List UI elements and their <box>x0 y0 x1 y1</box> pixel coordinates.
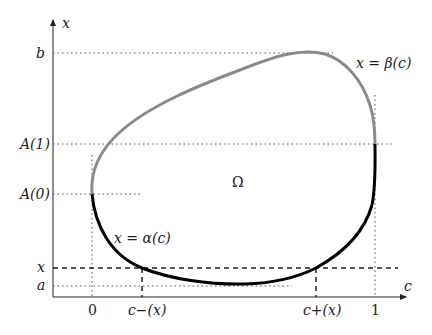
domain-diagram: x c b A(1) A(0) x a 0 c−(x) c+(x) 1 Ω x … <box>0 0 432 335</box>
dotted-guides <box>53 53 393 297</box>
tick-label-A1: A(1) <box>18 136 50 152</box>
tick-label-a: a <box>37 277 45 293</box>
region-omega-label: Ω <box>232 174 244 190</box>
tick-label-c-minus: c−(x) <box>128 302 166 318</box>
tick-label-x: x <box>37 259 45 275</box>
tick-label-zero: 0 <box>88 302 97 318</box>
vertical-axis-label: x <box>62 15 70 31</box>
horizontal-axis-label: c <box>404 278 412 294</box>
beta-curve <box>92 52 375 194</box>
tick-label-c-plus: c+(x) <box>303 302 341 318</box>
beta-curve-label: x = β(c) <box>356 55 411 71</box>
tick-label-one: 1 <box>371 302 380 318</box>
alpha-curve <box>92 144 375 284</box>
tick-label-b: b <box>36 45 45 61</box>
tick-label-A0: A(0) <box>18 186 50 202</box>
alpha-curve-label: x = α(c) <box>114 230 171 246</box>
